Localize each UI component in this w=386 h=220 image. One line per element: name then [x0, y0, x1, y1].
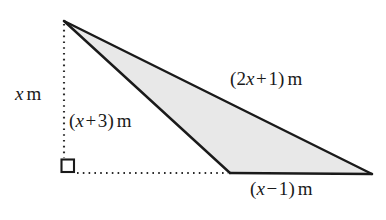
- label-side-x-plus-3: (x+3)m: [69, 111, 132, 130]
- label-left-operator: +: [84, 110, 98, 131]
- label-base-unit: m: [295, 178, 313, 199]
- label-height-x: xm: [15, 84, 41, 103]
- label-left-var: x: [75, 110, 84, 131]
- geometry-figure: xm (x+3)m (2x+1)m (x−1)m: [0, 0, 386, 220]
- label-base-var: x: [256, 178, 265, 199]
- label-long-unit: m: [284, 68, 302, 89]
- label-long-number: 1: [268, 68, 278, 89]
- label-base-close-paren: ): [288, 178, 294, 199]
- side-x-minus-1-line: [230, 173, 372, 174]
- label-height-var: x: [15, 83, 24, 104]
- label-left-close-paren: ): [107, 110, 113, 131]
- label-side-2x-plus-1: (2x+1)m: [230, 69, 302, 88]
- label-left-number: 3: [98, 110, 108, 131]
- label-base-number: 1: [279, 178, 289, 199]
- label-left-unit: m: [114, 110, 132, 131]
- label-side-x-minus-1: (x−1)m: [250, 179, 313, 198]
- label-long-var: x: [246, 68, 255, 89]
- figure-canvas: [0, 0, 386, 220]
- right-angle-marker-icon: [62, 160, 75, 173]
- label-long-operator: +: [255, 68, 269, 89]
- label-base-operator: −: [265, 178, 279, 199]
- label-height-unit: m: [24, 83, 42, 104]
- label-long-coefficient: 2: [236, 68, 246, 89]
